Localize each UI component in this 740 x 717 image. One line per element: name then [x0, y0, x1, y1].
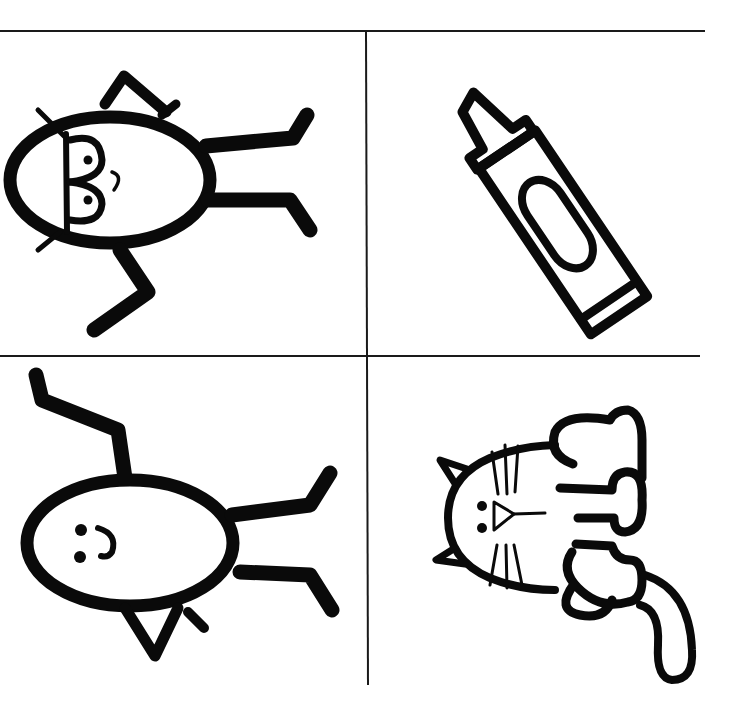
- leg-icon: [206, 115, 307, 146]
- eye-icon: [75, 524, 87, 536]
- arm-icon: [94, 250, 148, 330]
- arm-icon: [36, 375, 125, 478]
- card-crayon: Crayon: [440, 76, 647, 336]
- card-girl-smiling: Girl smiling (stick figure): [27, 375, 332, 656]
- leg-icon: [208, 200, 310, 230]
- crayon-body: [479, 130, 647, 334]
- grid-lines: [0, 31, 705, 685]
- card-boy-glasses: Boy with glasses (stick figure): [10, 76, 310, 330]
- eye-icon: [74, 551, 86, 563]
- eye-icon: [477, 501, 487, 511]
- leg-icon: [240, 572, 332, 610]
- smile-icon: [98, 528, 113, 557]
- crayon-label-oval: [513, 171, 602, 276]
- leg-icon: [232, 473, 330, 515]
- cat-nose-icon: [494, 502, 514, 530]
- picture-card-grid: Boy with glasses (stick figure) Crayon: [0, 0, 740, 717]
- cat-tail: [640, 575, 692, 680]
- hair-bow-icon: [125, 608, 178, 656]
- eye-icon: [84, 156, 93, 165]
- smile-icon: [112, 172, 119, 190]
- crayon-tip: [440, 77, 533, 170]
- grid-vertical-line: [366, 31, 368, 685]
- eye-icon: [84, 196, 93, 205]
- card-cat: Cat sitting: [436, 410, 692, 680]
- eye-icon: [477, 523, 487, 533]
- boy-body-oval: [10, 117, 210, 243]
- girl-body-oval: [27, 480, 233, 606]
